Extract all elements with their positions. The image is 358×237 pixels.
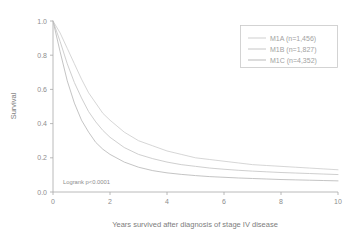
- y-tick-label: 0.8: [37, 52, 47, 59]
- survival-chart: 0.00.20.40.60.81.0 0246810 Logrank p<0.0…: [0, 0, 358, 237]
- y-tick-label: 0.4: [37, 120, 47, 127]
- legend-label-M1A: M1A (n=1,456): [270, 35, 316, 43]
- x-axis-title: Years survived after diagnosis of stage …: [112, 220, 278, 229]
- legend-label-M1C: M1C (n=4,352): [270, 57, 317, 65]
- x-tick-label: 4: [165, 198, 169, 205]
- x-tick-label: 0: [51, 198, 55, 205]
- legend-label-M1B: M1B (n=1,827): [270, 46, 317, 54]
- x-tick-label: 10: [334, 198, 342, 205]
- y-tick-label: 0.6: [37, 86, 47, 93]
- chart-canvas: 0.00.20.40.60.81.0 0246810 Logrank p<0.0…: [0, 0, 358, 237]
- x-tick-label: 8: [279, 198, 283, 205]
- y-tick-label: 0.2: [37, 154, 47, 161]
- y-tick-label: 1.0: [37, 18, 47, 25]
- logrank-annotation: Logrank p<0.0001: [63, 179, 110, 185]
- y-axis-title: Survival: [9, 92, 18, 119]
- x-tick-label: 6: [222, 198, 226, 205]
- y-tick-label: 0.0: [37, 189, 47, 196]
- x-tick-label: 2: [108, 198, 112, 205]
